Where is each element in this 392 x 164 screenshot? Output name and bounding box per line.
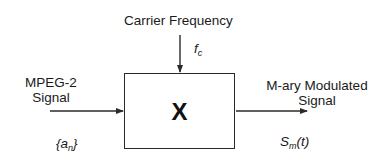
input-label-line1: MPEG-2 bbox=[18, 75, 84, 90]
output-symbol-base: S bbox=[280, 134, 289, 149]
multiply-operator: X bbox=[125, 98, 234, 126]
input-symbol-close: } bbox=[73, 136, 78, 151]
output-label: M-ary Modulated Signal bbox=[258, 78, 376, 108]
carrier-symbol: fc bbox=[194, 41, 202, 61]
carrier-symbol-subscript: c bbox=[198, 48, 203, 58]
input-label: MPEG-2 Signal bbox=[18, 75, 84, 105]
output-symbol-tail: (t) bbox=[297, 134, 310, 149]
output-symbol-subscript: m bbox=[289, 141, 297, 151]
carrier-frequency-label: Carrier Frequency bbox=[124, 13, 233, 28]
output-symbol: Sm(t) bbox=[280, 134, 309, 154]
input-label-line2: Signal bbox=[18, 90, 84, 105]
input-symbol-open: {a bbox=[56, 136, 68, 151]
input-symbol: {an} bbox=[56, 136, 78, 156]
multiplier-block: X bbox=[124, 73, 235, 149]
output-label-line2: Signal bbox=[258, 93, 376, 108]
output-label-line1: M-ary Modulated bbox=[258, 78, 376, 93]
